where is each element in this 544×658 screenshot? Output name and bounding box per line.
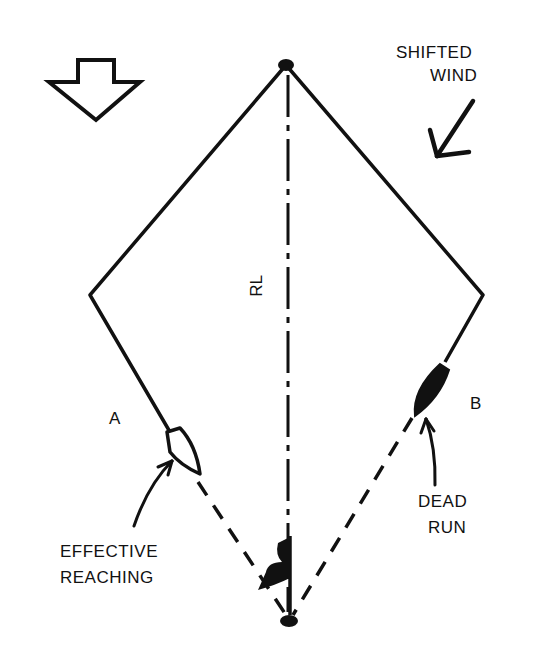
boat-a-label: A (109, 408, 121, 429)
original-wind-arrow-icon (49, 60, 140, 120)
dashed-legs (198, 418, 412, 615)
effective-reaching-label-line1: EFFECTIVE (60, 541, 158, 562)
dead-run-label-line1: DEAD (418, 491, 467, 512)
shifted-wind-arrow-icon (430, 101, 473, 156)
top-mark-icon (278, 59, 294, 71)
boat-b-label: B (470, 393, 482, 414)
bottom-mark-icon (280, 615, 298, 627)
finish-flag-icon (258, 536, 290, 615)
boat-b-icon (415, 364, 449, 416)
shifted-wind-label-line2: WIND (430, 65, 477, 86)
effective-reaching-label-line2: REACHING (60, 567, 154, 588)
pointer-arrow-a-icon (134, 461, 172, 526)
pointer-arrow-b-icon (421, 419, 435, 485)
course-legs (90, 65, 483, 432)
rhumb-line-label: RL (247, 275, 267, 297)
dead-run-label-line2: RUN (428, 517, 466, 538)
shifted-wind-label-line1: SHIFTED (396, 42, 472, 63)
boat-a-icon (167, 428, 200, 474)
